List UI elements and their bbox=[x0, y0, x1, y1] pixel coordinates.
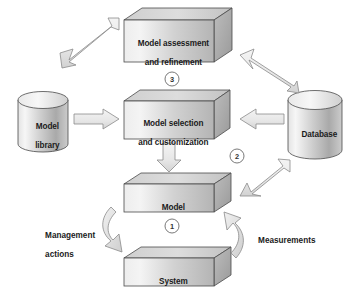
box-top-face bbox=[124, 173, 231, 184]
diagram-svg bbox=[0, 0, 360, 300]
box-front-face bbox=[124, 20, 214, 62]
curved-arrow-down bbox=[103, 207, 122, 252]
node-model-library[interactable] bbox=[18, 92, 68, 153]
step-3-circle bbox=[165, 72, 179, 86]
double-arrow-shaft bbox=[240, 159, 290, 196]
step-2-circle bbox=[230, 149, 244, 163]
node-model-selection[interactable] bbox=[124, 90, 230, 139]
cylinder-top bbox=[18, 92, 68, 109]
connector-model-to-database bbox=[240, 159, 290, 196]
box-top-face bbox=[124, 90, 230, 101]
connector-selection-to-model bbox=[157, 143, 181, 172]
node-model[interactable] bbox=[124, 173, 231, 212]
single-arrow-shaft bbox=[74, 109, 119, 129]
cylinder-top bbox=[288, 91, 342, 110]
node-database[interactable] bbox=[288, 91, 342, 160]
connector-database-to-selection bbox=[240, 109, 284, 129]
double-arrow-shaft bbox=[60, 18, 119, 68]
step-1-circle bbox=[165, 219, 179, 233]
single-arrow-shaft bbox=[157, 143, 181, 172]
diagram-canvas: Model assessment and refinement Model li… bbox=[0, 0, 360, 300]
box-front-face bbox=[124, 101, 214, 139]
connector-library-to-assessment bbox=[60, 18, 119, 68]
box-top-face bbox=[124, 8, 232, 20]
connector-model-to-system bbox=[103, 207, 122, 252]
node-model-assessment[interactable] bbox=[124, 8, 232, 62]
box-top-face bbox=[124, 247, 231, 258]
connector-database-to-assessment bbox=[240, 49, 299, 93]
connector-library-to-selection bbox=[74, 109, 119, 129]
box-front-face bbox=[124, 258, 214, 286]
box-front-face bbox=[124, 184, 214, 212]
node-system[interactable] bbox=[124, 247, 231, 286]
single-arrow-shaft bbox=[240, 49, 299, 93]
single-arrow-shaft bbox=[240, 109, 284, 129]
